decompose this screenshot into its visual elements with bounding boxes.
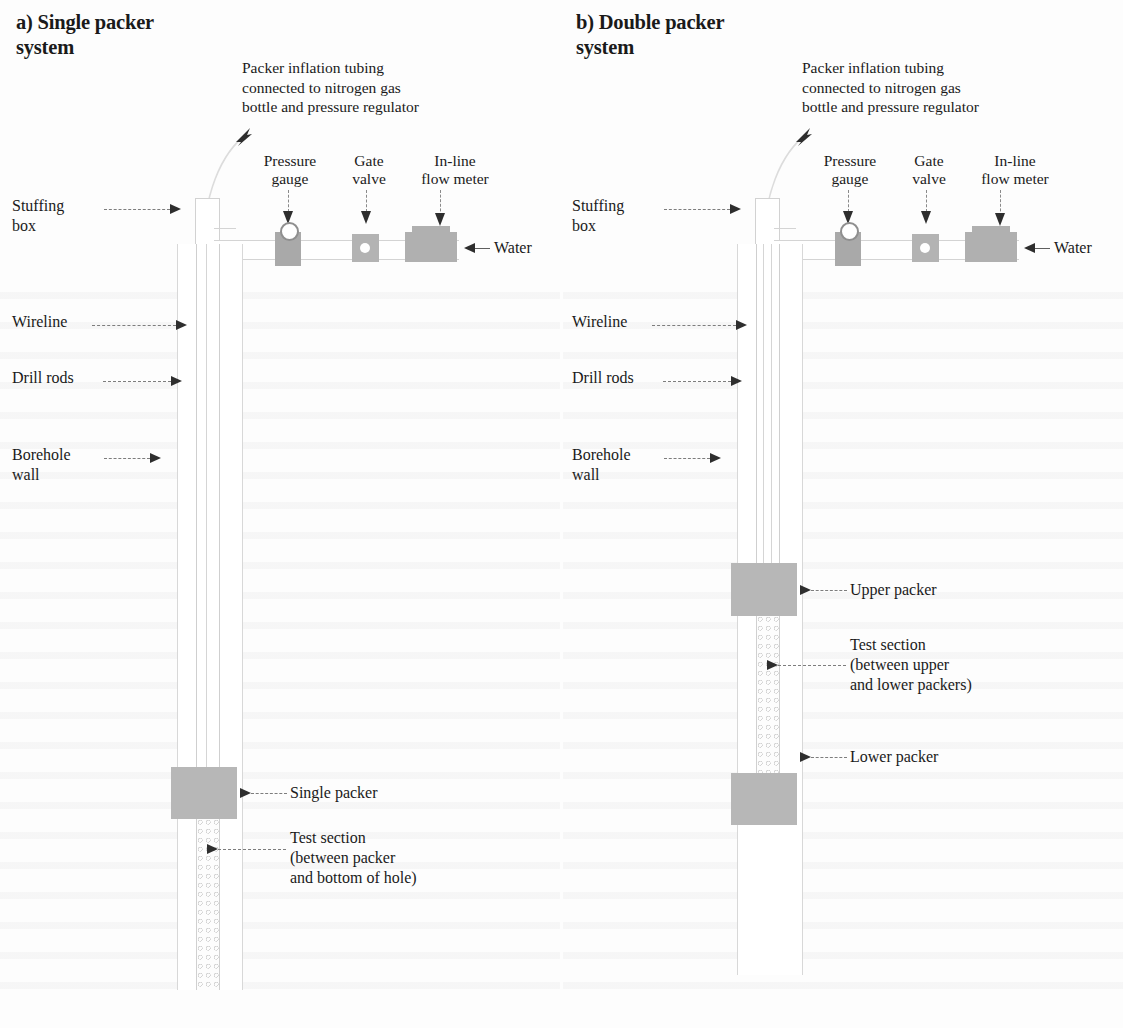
wireline-label-a: Wireline <box>12 312 122 332</box>
stuffing-box-arrow-b <box>730 204 741 214</box>
borehole-wall-arrow-a <box>150 453 161 463</box>
wireline-leader-a <box>92 325 176 326</box>
drill-rods-arrow-b <box>731 376 742 386</box>
flow-meter-arrow-b <box>995 213 1005 226</box>
drill-rods-arrow-a <box>171 376 182 386</box>
lower-packer-leader-b <box>811 757 847 758</box>
pressure-gauge-dial-b <box>840 222 859 241</box>
flow-meter-arrow-a <box>435 213 445 226</box>
lower-packer-callout-b: Lower packer <box>850 747 1050 767</box>
single-packer-a <box>171 767 237 819</box>
borehole-wall-leader-b <box>664 458 710 459</box>
wireline-arrow-a <box>176 320 187 330</box>
gate-valve-arrow-a <box>361 211 371 224</box>
borehole-wall-leader-a <box>104 458 150 459</box>
panel-a-inflation-tubing-note: Packer inflation tubing connected to nit… <box>242 58 542 117</box>
test-section-leader-b <box>778 665 846 666</box>
panel-b-title: b) Double packer system <box>576 10 896 60</box>
drill-rods-a <box>196 244 220 784</box>
lower-packer-b <box>731 773 797 825</box>
wireline-label-b: Wireline <box>572 312 682 332</box>
borehole-wall-label-a: Borehole wall <box>12 445 122 485</box>
test-section-arrow-a <box>207 844 218 854</box>
flow-meter-label-b: In-line flow meter <box>960 152 1070 188</box>
gate-valve-port-b <box>920 243 930 253</box>
gate-valve-leader-a <box>366 190 367 212</box>
flow-meter-b <box>965 232 1017 262</box>
pressure-gauge-leader-b <box>848 190 849 212</box>
borehole-wall-arrow-b <box>710 453 721 463</box>
stuffing-box-leader-a <box>104 209 170 210</box>
inflation-tubing-arrowhead-b <box>792 126 816 148</box>
flow-meter-a <box>405 232 457 262</box>
panel-double-packer-system: b) Double packer system Packer inflation… <box>560 0 1123 1028</box>
test-section-callout-b: Test section (between upper and lower pa… <box>850 635 1090 695</box>
wireline-arrow-b <box>736 320 747 330</box>
pressure-gauge-label-b: Pressure gauge <box>804 152 896 188</box>
water-arrow-a <box>464 243 475 253</box>
drill-rods-leader-a <box>103 381 171 382</box>
wireline-a <box>206 244 207 784</box>
wellhead-tee-a <box>214 228 236 229</box>
drill-rods-label-a: Drill rods <box>12 368 132 388</box>
upper-packer-arrow-b <box>800 585 811 595</box>
gate-valve-arrow-b <box>921 211 931 224</box>
gate-valve-port-a <box>360 243 370 253</box>
gate-valve-leader-b <box>926 190 927 212</box>
drill-rods-label-b: Drill rods <box>572 368 692 388</box>
upper-packer-b <box>731 563 797 616</box>
borehole-wall-label-b: Borehole wall <box>572 445 682 485</box>
flow-meter-cap-b <box>972 226 1010 234</box>
gate-valve-label-b: Gate valve <box>898 152 960 188</box>
lower-packer-arrow-b <box>800 752 811 762</box>
upper-packer-leader-b <box>811 590 847 591</box>
pressure-gauge-dial-a <box>280 222 299 241</box>
inflation-tubing-arrowhead-a <box>232 126 256 148</box>
panel-a-title: a) Single packer system <box>16 10 316 60</box>
flow-meter-label-a: In-line flow meter <box>400 152 510 188</box>
stuffing-box-label-a: Stuffing box <box>12 196 122 236</box>
test-section-arrow-b <box>767 660 778 670</box>
stuffing-box-a <box>195 198 220 246</box>
pressure-gauge-leader-a <box>288 190 289 212</box>
wireline-leader-b <box>652 325 736 326</box>
upper-packer-callout-b: Upper packer <box>850 580 1050 600</box>
drill-rods-b <box>756 244 780 564</box>
panel-b-inflation-tubing-note: Packer inflation tubing connected to nit… <box>802 58 1102 117</box>
panel-single-packer-system: a) Single packer system Packer inflation… <box>0 0 563 1028</box>
single-packer-leader-a <box>251 793 287 794</box>
test-section-callout-a: Test section (between packer and bottom … <box>290 828 520 888</box>
stuffing-box-leader-b <box>664 209 730 210</box>
wellhead-tee-b <box>774 228 796 229</box>
stuffing-box-arrow-a <box>170 204 181 214</box>
stuffing-box-b <box>755 198 780 246</box>
water-label-a: Water <box>494 238 564 258</box>
drill-rods-leader-b <box>663 381 731 382</box>
pressure-gauge-label-a: Pressure gauge <box>244 152 336 188</box>
water-arrow-b <box>1024 243 1035 253</box>
gate-valve-label-a: Gate valve <box>338 152 400 188</box>
test-section-leader-a <box>218 849 286 850</box>
inflation-tubing-line-b <box>771 244 772 564</box>
wireline-b <box>763 244 764 564</box>
flow-meter-cap-a <box>412 226 450 234</box>
water-label-b: Water <box>1054 238 1123 258</box>
single-packer-arrow-a <box>240 788 251 798</box>
test-section-screen-b <box>756 616 780 773</box>
stuffing-box-label-b: Stuffing box <box>572 196 682 236</box>
single-packer-callout-a: Single packer <box>290 783 490 803</box>
